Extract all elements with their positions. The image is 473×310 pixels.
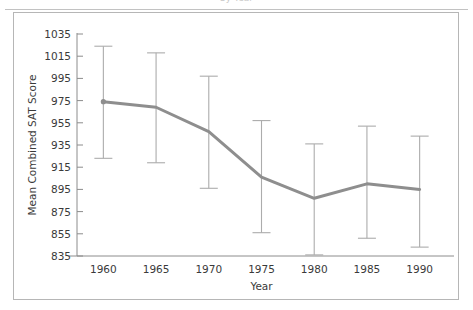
x-tick-label: 1960 xyxy=(90,263,117,275)
y-tick-label: 935 xyxy=(51,139,71,151)
y-axis-title: Mean Combined SAT Score xyxy=(26,74,38,215)
chart-figure-frame: 8358558758959159359559759951015103519601… xyxy=(13,12,459,300)
y-tick-label: 855 xyxy=(51,228,71,240)
x-tick-label: 1975 xyxy=(248,263,275,275)
x-axis-title: Year xyxy=(249,280,273,292)
y-tick-label: 995 xyxy=(51,72,71,84)
header-divider xyxy=(5,9,468,10)
y-tick-label: 875 xyxy=(51,206,71,218)
x-tick-label: 1990 xyxy=(406,263,433,275)
x-tick-label: 1970 xyxy=(195,263,222,275)
y-tick-label: 955 xyxy=(51,117,71,129)
x-tick-label: 1985 xyxy=(354,263,381,275)
y-tick-label: 1035 xyxy=(44,28,71,40)
y-tick-label: 975 xyxy=(51,95,71,107)
data-point-marker xyxy=(101,99,106,104)
x-tick-label: 1980 xyxy=(301,263,328,275)
x-tick-label: 1965 xyxy=(143,263,170,275)
y-tick-label: 835 xyxy=(51,250,71,262)
y-tick-label: 1015 xyxy=(44,50,71,62)
cut-off-title-strip: by Year xyxy=(0,0,473,11)
cut-off-title-text: by Year xyxy=(0,0,473,3)
sat-score-line-chart: 8358558758959159359559759951015103519601… xyxy=(14,13,458,299)
y-tick-label: 895 xyxy=(51,183,71,195)
y-tick-label: 915 xyxy=(51,161,71,173)
